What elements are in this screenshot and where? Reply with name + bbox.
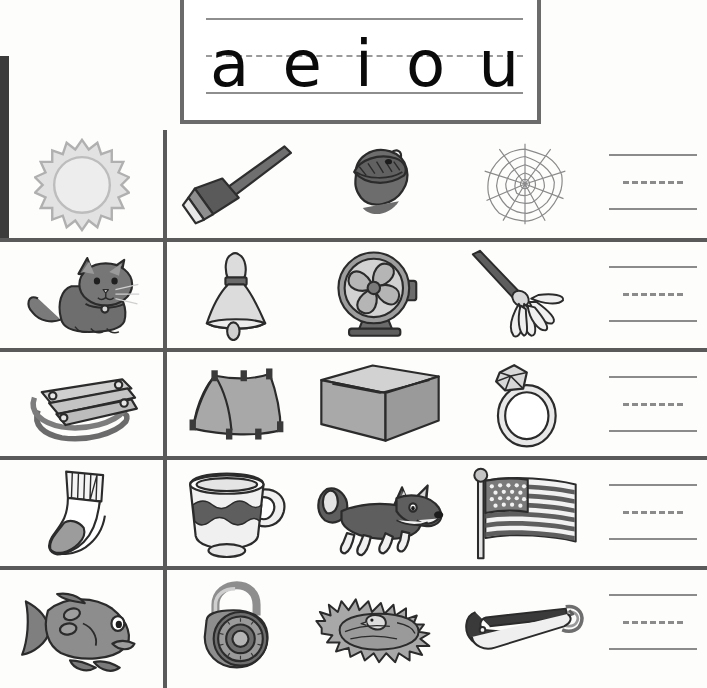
sun-icon [34,136,130,232]
column-divider [163,460,167,566]
writing-line-baseline [609,320,697,322]
writing-line-top [609,266,697,268]
writing-line-top [609,376,697,378]
cat-icon [22,251,142,339]
column-divider [163,352,167,456]
writing-line-middle-dashed [623,621,683,624]
sock-icon [45,466,119,560]
key-picture-cat[interactable] [0,242,164,348]
sled-icon [19,361,145,447]
writing-line-middle-dashed [623,293,683,296]
picture-cell-rake[interactable] [164,130,308,238]
writing-lines-cell[interactable] [597,570,707,688]
tent-icon [174,363,298,445]
fish-icon [16,583,148,675]
picture-row [164,570,597,688]
fan-icon [330,249,430,341]
writing-line-middle-dashed [623,403,683,406]
nest-icon [312,594,448,664]
key-picture-sled[interactable] [0,352,164,456]
rake-icon [176,141,296,227]
key-picture-sun[interactable] [0,130,164,238]
key-picture-sock[interactable] [0,460,164,566]
key-picture-fish[interactable] [0,570,164,688]
picture-cell-safety-pin[interactable] [453,570,597,688]
vowel-letter-o: o [406,35,445,94]
vowel-letter-u: u [478,35,519,94]
picture-row [164,242,597,348]
spider-web-icon [479,140,571,228]
writing-line-top [609,594,697,596]
picture-row [164,352,597,456]
writing-lines-cell[interactable] [597,352,707,456]
picture-cell-lock[interactable] [164,570,308,688]
handwriting-guide-area: a e i o u [206,18,523,94]
picture-cell-tent[interactable] [164,352,308,456]
picture-cell-fan[interactable] [308,242,452,348]
vowel-guide-box: a e i o u [180,0,541,124]
table-row [0,130,707,238]
picture-cell-flag[interactable] [453,460,597,566]
picture-cell-ring[interactable] [453,352,597,456]
picture-cell-acorn[interactable] [308,130,452,238]
fox-icon [313,469,447,557]
writing-line-baseline [609,430,697,432]
writing-line-baseline [609,208,697,210]
worksheet-page: a e i o u [0,0,707,688]
vowel-letter-i: i [355,35,373,94]
picture-cell-fox[interactable] [308,460,452,566]
bell-icon [198,249,274,341]
table-row [0,238,707,348]
table-row [0,456,707,566]
picture-cell-box[interactable] [308,352,452,456]
picture-row [164,460,597,566]
column-divider [163,130,167,238]
picture-cell-web[interactable] [453,130,597,238]
writing-line-middle-dashed [623,181,683,184]
writing-line-top [609,154,697,156]
picture-cell-bell[interactable] [164,242,308,348]
box-icon [314,360,446,448]
padlock-icon [194,581,278,677]
acorn-icon [337,141,423,227]
table-row [0,566,707,688]
flag-icon [466,466,584,560]
picture-cell-mop[interactable] [453,242,597,348]
vowel-letter-a: a [210,35,249,94]
writing-lines-cell[interactable] [597,460,707,566]
column-divider [163,242,167,348]
picture-grid [0,130,707,688]
writing-line-middle-dashed [623,511,683,514]
writing-lines-cell[interactable] [597,130,707,238]
picture-cell-cup[interactable] [164,460,308,566]
mop-icon [467,249,583,341]
writing-lines-cell[interactable] [597,242,707,348]
writing-line-baseline [609,538,697,540]
writing-line-baseline [609,648,697,650]
vowel-letter-row: a e i o u [206,20,523,94]
cup-icon [181,468,291,558]
writing-line-top [609,484,697,486]
picture-cell-nest[interactable] [308,570,452,688]
safety-pin-icon [460,598,590,660]
picture-row [164,130,597,238]
vowel-letter-e: e [282,35,321,94]
ring-icon [485,358,565,450]
column-divider [163,570,167,688]
table-row [0,348,707,456]
